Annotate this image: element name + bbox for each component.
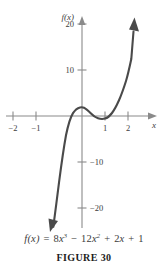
equation-var-linear: x — [120, 233, 125, 244]
x-axis-arrow-icon — [148, 113, 157, 120]
y-tick-label-10: 10 — [66, 65, 75, 75]
curve-arrow-lower-left-icon — [49, 219, 59, 233]
y-tick-label-minus20: −20 — [90, 203, 103, 213]
equation-coef-quadratic: 12 — [81, 233, 92, 244]
figure-equation: f(x) = 8x3 − 12x2 + 2x + 1 — [0, 233, 168, 244]
equation-exp-3: 3 — [64, 232, 68, 239]
equation-fx-arg: (x) — [27, 233, 39, 244]
x-tick-label-minus2: −2 — [8, 123, 17, 133]
x-tick-label-2: 2 — [126, 123, 130, 133]
function-graph: −2 −1 1 2 20 10 −10 −20 f(x) x — [0, 0, 168, 235]
equation-minus: − — [70, 233, 78, 244]
x-axis-label: x — [151, 120, 156, 130]
equation-equals: = — [43, 233, 51, 244]
curve-arrow-upper-right-icon — [129, 18, 139, 32]
figure-caption: FIGURE 30 — [0, 252, 168, 263]
x-tick-label-minus1: −1 — [31, 123, 40, 133]
plot-area: −2 −1 1 2 20 10 −10 −20 f(x) x — [0, 0, 168, 235]
y-axis-label: f(x) — [62, 12, 75, 22]
y-tick-label-minus10: −10 — [90, 157, 103, 167]
curve-f-of-x — [53, 32, 133, 227]
equation-plus-2: + — [127, 233, 135, 244]
equation-exp-2: 2 — [97, 232, 101, 239]
equation-plus-1: + — [103, 233, 111, 244]
x-tick-label-1: 1 — [103, 123, 107, 133]
figure-container: −2 −1 1 2 20 10 −10 −20 f(x) x f(x) = 8x… — [0, 0, 168, 270]
equation-constant: 1 — [138, 233, 143, 244]
